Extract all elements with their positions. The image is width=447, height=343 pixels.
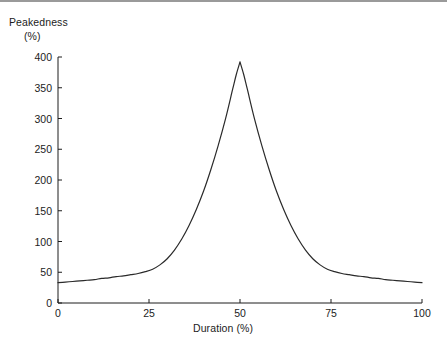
y-tick-label: 150 xyxy=(18,205,52,216)
series-line-peakedness xyxy=(58,62,422,283)
y-tick-label: 400 xyxy=(18,52,52,63)
y-tick-label: 200 xyxy=(18,175,52,186)
y-tick-label: 350 xyxy=(18,82,52,93)
plot-area xyxy=(0,0,447,343)
x-tick-label: 100 xyxy=(413,308,431,319)
x-tick-label: 25 xyxy=(143,308,155,319)
x-axis-ticks xyxy=(58,299,422,303)
x-tick-label: 75 xyxy=(325,308,337,319)
y-tick-label: 300 xyxy=(18,113,52,124)
y-tick-label: 100 xyxy=(18,236,52,247)
y-tick-label: 50 xyxy=(18,267,52,278)
chart-figure: Peakedness (%) Duration (%) 050100150200… xyxy=(0,0,447,343)
x-tick-label: 50 xyxy=(234,308,246,319)
x-tick-label: 0 xyxy=(55,308,61,319)
y-tick-label: 0 xyxy=(18,298,52,309)
axis-lines xyxy=(58,57,422,303)
y-axis-ticks xyxy=(58,57,62,303)
y-tick-label: 250 xyxy=(18,144,52,155)
